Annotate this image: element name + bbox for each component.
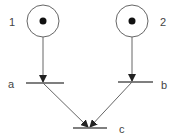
transition-a-label: a — [8, 78, 15, 90]
token-icon — [40, 18, 47, 25]
transition-c-label: c — [119, 123, 125, 135]
token-icon — [129, 18, 136, 25]
place-1-label: 1 — [9, 16, 15, 28]
petri-net-diagram: 1 2 a b c — [0, 0, 176, 140]
arc-a-to-c — [43, 83, 88, 127]
arc-b-to-c — [90, 82, 132, 127]
transition-b-label: b — [161, 79, 167, 91]
place-2-label: 2 — [160, 16, 166, 28]
place-1 — [27, 5, 59, 37]
place-2 — [116, 5, 148, 37]
